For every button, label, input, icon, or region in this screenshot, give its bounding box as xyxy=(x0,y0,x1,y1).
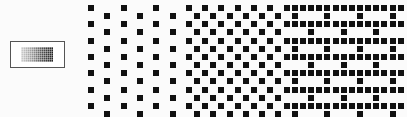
halftone-dot xyxy=(186,38,192,44)
halftone-dot xyxy=(324,54,330,60)
halftone-dot xyxy=(324,38,330,44)
halftone-dot xyxy=(365,70,371,76)
halftone-dot xyxy=(357,54,363,60)
halftone-dot xyxy=(227,62,233,68)
halftone-dot xyxy=(357,111,363,117)
halftone-dot xyxy=(218,5,224,11)
halftone-dot xyxy=(292,46,298,52)
halftone-dot xyxy=(243,29,249,35)
halftone-dot xyxy=(373,5,379,11)
halftone-dot xyxy=(259,29,265,35)
halftone-dot xyxy=(324,103,330,109)
halftone-dot xyxy=(308,95,314,101)
halftone-dot xyxy=(357,13,363,19)
halftone-dot xyxy=(88,87,94,93)
halftone-dot xyxy=(210,46,216,52)
halftone-dot xyxy=(333,87,339,93)
halftone-dot xyxy=(218,38,224,44)
halftone-dot xyxy=(308,29,314,35)
halftone-dot xyxy=(137,111,143,117)
halftone-dot xyxy=(292,54,298,60)
halftone-dot xyxy=(267,21,273,27)
halftone-dot xyxy=(357,87,363,93)
halftone-dot xyxy=(170,46,176,52)
halftone-dot xyxy=(121,87,127,93)
halftone-dot xyxy=(324,78,330,84)
halftone-dot xyxy=(324,111,330,117)
halftone-dot xyxy=(300,87,306,93)
halftone-dot xyxy=(308,62,314,68)
halftone-dot xyxy=(235,5,241,11)
halftone-dot xyxy=(275,29,281,35)
halftone-dot xyxy=(243,62,249,68)
halftone-dot xyxy=(292,111,298,117)
halftone-dot xyxy=(316,54,322,60)
halftone-dot xyxy=(186,54,192,60)
halftone-dot xyxy=(227,29,233,35)
halftone-dot xyxy=(227,111,233,117)
halftone-dot xyxy=(194,13,200,19)
halftone-dot xyxy=(267,103,273,109)
halftone-dot xyxy=(390,70,396,76)
halftone-dot xyxy=(227,46,233,52)
halftone-dot xyxy=(381,38,387,44)
halftone-dot xyxy=(267,87,273,93)
halftone-dot xyxy=(202,103,208,109)
halftone-dot xyxy=(202,5,208,11)
halftone-dot xyxy=(333,70,339,76)
halftone-dot xyxy=(390,38,396,44)
halftone-dot xyxy=(381,54,387,60)
halftone-dot xyxy=(251,21,257,27)
halftone-dot xyxy=(235,70,241,76)
halftone-dot xyxy=(194,29,200,35)
halftone-dot xyxy=(357,38,363,44)
halftone-dot xyxy=(202,87,208,93)
halftone-dot xyxy=(210,29,216,35)
halftone-dot xyxy=(308,54,314,60)
halftone-dot xyxy=(341,62,347,68)
halftone-dot xyxy=(373,103,379,109)
halftone-dot xyxy=(121,5,127,11)
halftone-dot xyxy=(390,21,396,27)
halftone-dot xyxy=(121,21,127,27)
halftone-dot xyxy=(292,21,298,27)
halftone-dot xyxy=(324,13,330,19)
halftone-dot xyxy=(324,87,330,93)
halftone-dot xyxy=(153,54,159,60)
halftone-dot xyxy=(292,38,298,44)
halftone-dot xyxy=(357,103,363,109)
halftone-dot xyxy=(341,95,347,101)
halftone-dot xyxy=(308,103,314,109)
halftone-dot xyxy=(194,95,200,101)
halftone-dot xyxy=(170,13,176,19)
halftone-dot xyxy=(398,5,404,11)
halftone-dot xyxy=(235,38,241,44)
halftone-dot xyxy=(88,54,94,60)
halftone-dot xyxy=(235,54,241,60)
halftone-dot xyxy=(316,5,322,11)
halftone-dot xyxy=(357,5,363,11)
halftone-dot xyxy=(186,21,192,27)
halftone-dot xyxy=(218,87,224,93)
halftone-dot xyxy=(292,103,298,109)
halftone-dot xyxy=(202,54,208,60)
halftone-dot xyxy=(186,103,192,109)
halftone-dot xyxy=(398,21,404,27)
halftone-dot xyxy=(333,38,339,44)
halftone-dot xyxy=(227,13,233,19)
halftone-dot xyxy=(153,21,159,27)
halftone-dot xyxy=(267,38,273,44)
halftone-dot xyxy=(390,13,396,19)
halftone-dot xyxy=(292,87,298,93)
halftone-dot xyxy=(365,87,371,93)
halftone-dot xyxy=(218,21,224,27)
halftone-dot xyxy=(210,111,216,117)
halftone-dot xyxy=(398,103,404,109)
halftone-dot xyxy=(153,87,159,93)
halftone-dot xyxy=(324,70,330,76)
halftone-dot xyxy=(153,38,159,44)
halftone-dot xyxy=(267,70,273,76)
halftone-dot xyxy=(153,103,159,109)
halftone-dot xyxy=(137,95,143,101)
halftone-dot xyxy=(300,103,306,109)
